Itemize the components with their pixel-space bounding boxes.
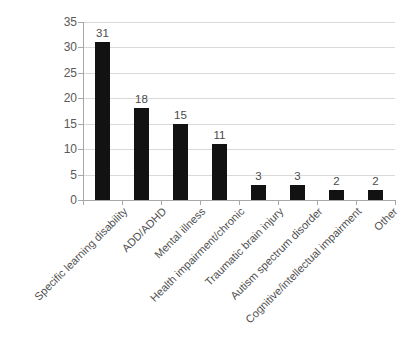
x-tick-7 [356, 200, 357, 205]
bar-value-4: 3 [239, 170, 279, 182]
x-tick-3 [200, 200, 201, 205]
bar-3 [212, 144, 227, 200]
bar-value-7: 2 [356, 175, 396, 187]
bar-6 [329, 190, 344, 200]
y-axis-label-15: 15 [37, 118, 77, 130]
bar-7 [368, 190, 383, 200]
x-tick-5 [278, 200, 279, 205]
x-axis-category-6: Cognitive/intellectual impairment [221, 205, 364, 344]
bar-value-0: 31 [83, 27, 123, 39]
y-axis-label-0: 0 [37, 194, 77, 206]
y-axis-label-25: 25 [37, 67, 77, 79]
x-axis-category-7: Other [363, 205, 400, 242]
bar-1 [134, 108, 149, 200]
bar-value-1: 18 [122, 93, 162, 105]
bar-value-3: 11 [200, 129, 240, 141]
bar-5 [290, 185, 305, 200]
y-axis-label-5: 5 [37, 169, 77, 181]
bar-value-2: 15 [161, 109, 201, 121]
x-tick-1 [122, 200, 123, 205]
y-axis-line [83, 22, 84, 201]
bar-4 [251, 185, 266, 200]
x-tick-0 [83, 200, 84, 205]
gridline-15 [83, 124, 395, 125]
gridline-30 [83, 47, 395, 48]
x-axis-category-2: Mental illness [135, 205, 207, 277]
x-tick-4 [239, 200, 240, 205]
plot-area: 31 18 15 11 3 3 2 2 [83, 22, 395, 200]
x-tick-6 [317, 200, 318, 205]
gridline-35 [83, 22, 395, 23]
bar-chart: 31 18 15 11 3 3 2 2 35 30 25 20 15 10 5 … [0, 0, 415, 344]
y-axis-label-30: 30 [37, 41, 77, 53]
y-axis-label-10: 10 [37, 143, 77, 155]
gridline-25 [83, 73, 395, 74]
x-tick-8 [395, 200, 396, 205]
bar-2 [173, 124, 188, 200]
bar-value-6: 2 [317, 175, 357, 187]
y-axis-label-35: 35 [37, 16, 77, 28]
bar-0 [95, 42, 110, 200]
y-axis-label-20: 20 [37, 92, 77, 104]
bar-value-5: 3 [278, 170, 318, 182]
gridline-10 [83, 149, 395, 150]
x-tick-2 [161, 200, 162, 205]
